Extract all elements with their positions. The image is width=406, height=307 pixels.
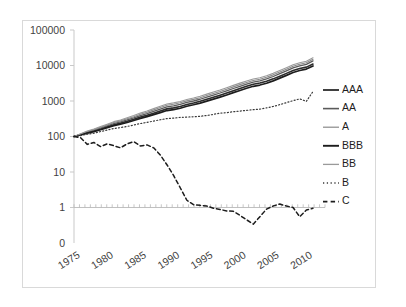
legend-label-aaa: AAA bbox=[342, 83, 363, 95]
y-axis-tick-label: 100000 bbox=[30, 24, 65, 36]
y-axis-tick-label: 10000 bbox=[36, 59, 65, 71]
x-axis-tick-label: 1990 bbox=[155, 248, 181, 271]
chart-container: 1000001000010001001010197519801985199019… bbox=[22, 20, 376, 288]
legend-label-bb: BB bbox=[342, 157, 356, 169]
line-chart: 1000001000010001001010197519801985199019… bbox=[23, 21, 377, 289]
x-axis-tick-label: 1985 bbox=[122, 248, 148, 271]
y-axis-tick-label: 10 bbox=[53, 166, 65, 178]
y-axis-tick-label: 0 bbox=[59, 237, 65, 249]
x-axis-tick-label: 1980 bbox=[89, 248, 115, 271]
legend-label-bbb: BBB bbox=[342, 139, 363, 151]
x-axis-tick-label: 2000 bbox=[222, 248, 248, 271]
legend-label-b: B bbox=[342, 176, 349, 188]
y-axis-tick-label: 1 bbox=[59, 201, 65, 213]
x-axis-tick-label: 1995 bbox=[188, 248, 214, 271]
series-line-c bbox=[74, 137, 313, 225]
legend-label-a: A bbox=[342, 120, 349, 132]
x-axis-tick-label: 2005 bbox=[255, 248, 281, 271]
legend-label-aa: AA bbox=[342, 101, 356, 113]
x-axis-tick-label: 1975 bbox=[56, 248, 82, 271]
legend-label-c: C bbox=[342, 194, 350, 206]
y-axis-tick-label: 100 bbox=[47, 130, 65, 142]
x-axis-tick-label: 2010 bbox=[288, 248, 314, 271]
y-axis-tick-label: 1000 bbox=[42, 95, 66, 107]
